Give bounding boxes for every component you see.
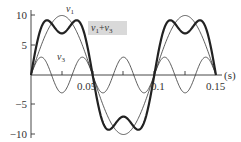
x-unit-label: (s) — [224, 69, 236, 82]
chart: 10 5 −5 −10 0.05 0.1 0.15 (s) v1 v3 v1+v… — [0, 0, 241, 142]
x-tick-label-015: 0.15 — [206, 80, 226, 92]
y-tick-label-m10: −10 — [10, 128, 28, 140]
x-tick-label-01: 0.1 — [151, 80, 165, 92]
y-tick-label-5: 5 — [22, 39, 28, 51]
v1-label: v1 — [66, 3, 74, 16]
v3-label: v3 — [57, 51, 65, 64]
x-tick-label-005: 0.05 — [77, 80, 97, 92]
y-tick-label-m5: −5 — [15, 98, 27, 110]
y-tick-label-10: 10 — [16, 9, 28, 21]
